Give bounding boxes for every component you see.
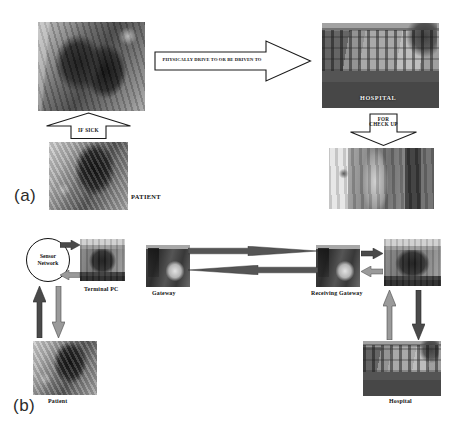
arrow-if-sick: IF SICK xyxy=(45,112,132,140)
panel-a: HOSPITAL PATIENT IF SICK PHYSICALLY DRIV… xyxy=(0,0,462,218)
photo-receiving-gateway xyxy=(316,245,360,287)
arrow-hospital-pc-to-receiving-shape xyxy=(361,266,383,277)
arrow-receiving-to-hospital-pc xyxy=(361,248,383,259)
photo-driving xyxy=(38,22,145,111)
panel-tag-b: (b) xyxy=(13,396,35,416)
caption-gateway: Gateway xyxy=(152,290,176,296)
photo-patient-b-surface xyxy=(33,341,97,395)
arrow-receiving-to-hospital-pc-shape xyxy=(361,248,383,259)
arrow-terminal-pc-to-sensor xyxy=(60,270,80,280)
photo-driving-surface xyxy=(38,22,145,111)
arrow-hospital-pc-to-hospital-shape xyxy=(412,290,425,340)
figure-canvas: HOSPITAL PATIENT IF SICK PHYSICALLY DRIV… xyxy=(0,0,462,433)
arrow-sensor-to-terminal-pc xyxy=(60,240,80,250)
photo-gateway-surface xyxy=(146,245,190,287)
photo-gateway xyxy=(146,245,190,287)
photo-checkup-surface xyxy=(329,148,434,209)
caption-patient-a: PATIENT xyxy=(131,193,161,200)
arrow-patient-to-sensor-shape xyxy=(33,286,46,338)
arrow-receiving-to-gateway-shape xyxy=(188,265,318,275)
arrow-for-check-up: FOR CHECK UP xyxy=(349,113,418,147)
arrow-terminal-pc-to-sensor-shape xyxy=(60,270,80,280)
photo-patient-a-surface xyxy=(49,142,128,210)
panel-tag-a: (a) xyxy=(14,186,36,206)
photo-hospital-terminal-pc xyxy=(384,239,441,286)
hospital-overlay-label: HOSPITAL xyxy=(360,94,396,101)
arrow-sensor-to-patient-shape xyxy=(52,286,65,338)
arrow-hospital-to-hospital-pc-shape xyxy=(383,290,396,340)
photo-terminal-pc xyxy=(80,239,125,281)
photo-receiving-gateway-surface xyxy=(316,245,360,287)
arrow-hospital-to-hospital-pc xyxy=(383,290,396,340)
arrow-gateway-to-receiving xyxy=(188,246,318,256)
arrow-receiving-to-gateway xyxy=(188,265,318,275)
caption-terminal-pc: Terminal PC xyxy=(84,286,119,292)
photo-checkup xyxy=(329,148,434,209)
arrow-sensor-to-patient xyxy=(52,286,65,338)
arrow-physically-drive-to-shape xyxy=(154,40,312,82)
arrow-hospital-pc-to-hospital xyxy=(412,290,425,340)
arrow-hospital-pc-to-receiving xyxy=(361,266,383,277)
arrow-for-check-up-shape xyxy=(349,113,418,147)
panel-b: Sensor Network Terminal PC Gateway Recei… xyxy=(0,218,462,433)
photo-hospital-terminal-pc-surface xyxy=(384,239,441,286)
caption-receiving-gateway: Receiving Gateway xyxy=(311,290,363,296)
arrow-sensor-to-terminal-pc-shape xyxy=(60,240,80,250)
photo-patient-a xyxy=(49,142,128,210)
arrow-if-sick-shape xyxy=(45,112,132,140)
photo-hospital-building-b-surface xyxy=(363,341,441,396)
photo-hospital-building-b xyxy=(363,341,441,396)
arrow-gateway-to-receiving-shape xyxy=(188,246,318,256)
arrow-patient-to-sensor xyxy=(33,286,46,338)
arrow-physically-drive-to: PHYSICALLY DRIVE TO OR BE DRIVEN TO xyxy=(154,40,312,82)
sensor-network-label: Sensor Network xyxy=(38,253,59,267)
photo-terminal-pc-surface xyxy=(80,239,125,281)
caption-hospital-b: Hospital xyxy=(389,398,412,404)
photo-patient-b xyxy=(33,341,97,395)
caption-patient-b: Patient xyxy=(48,398,67,404)
